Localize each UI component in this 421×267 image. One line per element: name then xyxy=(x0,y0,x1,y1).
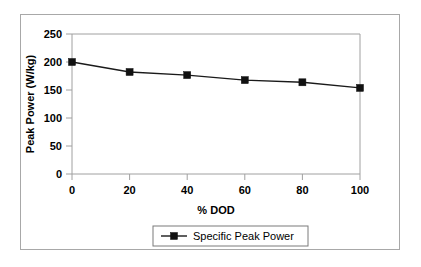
x-axis-tick-labels: 0 20 40 60 80 100 xyxy=(69,184,369,196)
legend-marker-sample xyxy=(171,233,178,240)
y-tick-label-100: 100 xyxy=(44,112,62,124)
x-tick-label-60: 60 xyxy=(239,184,251,196)
data-point-100 xyxy=(357,84,364,91)
y-axis-ticks xyxy=(66,34,72,174)
data-point-60 xyxy=(241,77,248,84)
plot-frame xyxy=(72,34,360,174)
x-tick-label-40: 40 xyxy=(181,184,193,196)
x-axis-title: % DOD xyxy=(197,204,234,216)
x-axis-ticks xyxy=(72,174,360,180)
y-tick-label-50: 50 xyxy=(50,140,62,152)
x-tick-label-20: 20 xyxy=(123,184,135,196)
chart-legend: Specific Peak Power xyxy=(153,226,308,246)
data-point-40 xyxy=(184,72,191,79)
y-tick-label-150: 150 xyxy=(44,84,62,96)
y-tick-label-250: 250 xyxy=(44,28,62,40)
y-axis-title: Peak Power (W/kg) xyxy=(24,54,36,153)
legend-label-specific-peak-power: Specific Peak Power xyxy=(193,230,294,242)
data-point-20 xyxy=(126,69,133,76)
x-tick-label-100: 100 xyxy=(351,184,369,196)
series-markers xyxy=(69,59,364,92)
y-axis-tick-labels: 0 50 100 150 200 250 xyxy=(44,28,62,180)
data-point-80 xyxy=(299,79,306,86)
line-chart: 0 50 100 150 200 250 0 20 40 60 80 100 %… xyxy=(0,0,421,267)
chart-figure: 0 50 100 150 200 250 0 20 40 60 80 100 %… xyxy=(0,0,421,267)
series-line-specific-peak-power xyxy=(72,62,360,88)
x-tick-label-0: 0 xyxy=(69,184,75,196)
x-tick-label-80: 80 xyxy=(296,184,308,196)
y-tick-label-200: 200 xyxy=(44,56,62,68)
y-tick-label-0: 0 xyxy=(56,168,62,180)
data-point-0 xyxy=(69,59,76,66)
